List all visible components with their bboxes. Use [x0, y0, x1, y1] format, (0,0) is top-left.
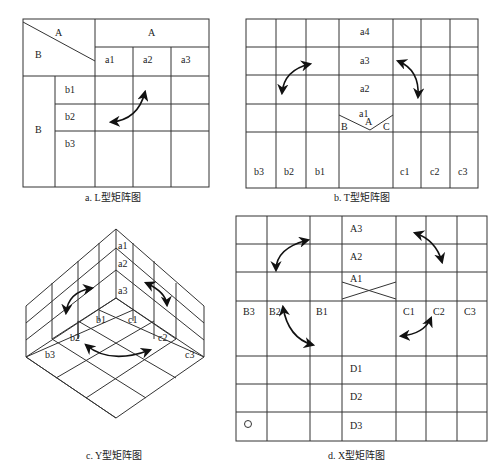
label-c3: c3	[185, 349, 194, 360]
caption-x: d. X型矩阵图	[328, 449, 385, 461]
col-b3: b3	[254, 166, 264, 177]
matrix-diagrams: A B A a1 a2 a3 B b1 b2 b3 a. L型矩阵图 a4 a3…	[0, 0, 497, 472]
label-b3: b3	[45, 349, 55, 360]
col-c2: C2	[433, 306, 445, 317]
col-a3: a3	[181, 54, 190, 65]
hub-a: A	[365, 116, 373, 127]
row-a4: a4	[360, 26, 369, 37]
row-d2: D2	[350, 391, 362, 402]
row-b2: b2	[65, 111, 75, 122]
row-a2: A2	[350, 251, 362, 262]
col-b1: b1	[315, 166, 325, 177]
label-a2: a2	[118, 258, 127, 269]
row-b1: b1	[65, 84, 75, 95]
label-b2: b2	[70, 332, 80, 343]
double-arrow-icon	[415, 233, 442, 262]
x-matrix: A3 A2 A1 B3 B2 B1 C1 C2 C3 D1 D2 D3 d. X…	[236, 216, 487, 461]
row-a2: a2	[360, 83, 369, 94]
double-arrow-icon	[111, 92, 145, 122]
col-c1: c1	[400, 166, 409, 177]
caption-t: b. T型矩阵图	[334, 191, 390, 203]
caption-l: a. L型矩阵图	[85, 191, 141, 203]
l-matrix: A B A a1 a2 a3 B b1 b2 b3 a. L型矩阵图	[23, 19, 209, 203]
col-b3: B3	[243, 306, 255, 317]
row-b3: b3	[65, 138, 75, 149]
double-arrow-icon	[283, 307, 313, 345]
label-c1: c1	[128, 314, 137, 325]
row-d3: D3	[350, 420, 362, 431]
col-b1: B1	[316, 306, 328, 317]
double-arrow-icon	[398, 61, 418, 97]
label-a3: a3	[118, 285, 127, 296]
row-a3: A3	[350, 223, 362, 234]
corner-label-a: A	[55, 27, 63, 38]
t-matrix: a4 a3 a2 a1 A B C b3 b2 b1 c1 c2 c3 b. T…	[246, 19, 478, 203]
hub-b: B	[341, 121, 348, 132]
caption-y: c. Y型矩阵图	[86, 449, 142, 461]
col-c1: C1	[403, 306, 415, 317]
hub-c: C	[383, 121, 390, 132]
col-c3: c3	[458, 166, 467, 177]
col-c3: C3	[464, 306, 476, 317]
header-a: A	[148, 27, 156, 38]
row-a1: A1	[350, 273, 362, 284]
label-b1: b1	[96, 314, 106, 325]
col-a2: a2	[143, 54, 152, 65]
corner-label-b: B	[35, 49, 42, 60]
row-d1: D1	[350, 363, 362, 374]
y-matrix: a1 a2 a3 b1 b2 b3 c1 c2 c3 c. Y型矩阵图	[26, 229, 204, 461]
col-b2: B2	[269, 306, 281, 317]
col-a1: a1	[105, 54, 114, 65]
row-group-b: B	[35, 124, 42, 135]
label-a1: a1	[118, 240, 127, 251]
row-a3: a3	[360, 55, 369, 66]
col-c2: c2	[430, 166, 439, 177]
col-b2: b2	[284, 166, 294, 177]
circle-marker-icon	[245, 421, 252, 428]
label-c2: c2	[158, 332, 167, 343]
